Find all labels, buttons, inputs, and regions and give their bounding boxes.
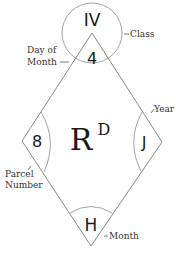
class-label: Class xyxy=(130,29,155,39)
day-of-month-label-1: Day of xyxy=(27,45,57,55)
parcel-arc xyxy=(41,112,50,172)
day-of-month-value: 4 xyxy=(87,49,97,68)
parcel-number-label-2: Number xyxy=(5,180,43,190)
parcel-number-label-1: Parcel xyxy=(5,169,34,179)
parcel-number-value: 8 xyxy=(32,132,42,151)
year-label: Year xyxy=(153,104,175,114)
center-symbol: R xyxy=(70,122,94,157)
center-superscript: D xyxy=(98,120,111,139)
month-value: H xyxy=(85,215,98,235)
year-value: J xyxy=(141,133,147,152)
month-label: Month xyxy=(109,231,139,241)
class-value: IV xyxy=(84,10,101,30)
month-arc xyxy=(70,207,112,214)
day-of-month-label-2: Month xyxy=(27,57,57,67)
diamond-diagram: IV 4 8 J H R D Class Day of Month Year P… xyxy=(0,0,176,255)
